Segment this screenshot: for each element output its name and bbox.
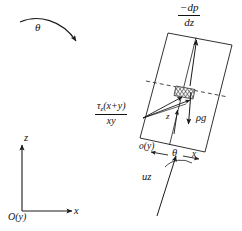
inclination-angle-label: θ (35, 22, 40, 33)
offset-dimension-arrow (151, 152, 168, 155)
gravity-label: ρg (196, 113, 206, 124)
velocity-label: uz (142, 172, 151, 183)
element-z-label: z (166, 112, 170, 121)
element-x-label: x (192, 150, 196, 160)
shear-stress-label: τz(x+y) xy (95, 101, 127, 126)
hatched-fluid-element (174, 86, 195, 99)
element-z-arrow (174, 110, 178, 134)
pressure-gradient-numerator: −dp (178, 2, 200, 14)
axis-z-label: z (24, 133, 28, 144)
inclination-curved-arrow (20, 19, 76, 41)
velocity-arrow (157, 156, 176, 216)
pressure-gradient-label: −dp dz (178, 2, 200, 28)
shear-stress-numerator: τz(x+y) (95, 101, 127, 113)
element-theta-label: θ (172, 148, 177, 159)
axis-x-label: x (74, 206, 79, 217)
tau-numerator-rest: (x+y) (103, 100, 125, 111)
offset-label: o(y) (139, 142, 154, 152)
pressure-gradient-arrow (190, 40, 197, 86)
shear-stress-denominator: xy (95, 116, 127, 127)
x-dimension-arrow (183, 156, 199, 159)
origin-label: O(y) (8, 212, 26, 222)
theta-angle-arc (165, 160, 192, 167)
pressure-gradient-denominator: dz (178, 17, 200, 29)
